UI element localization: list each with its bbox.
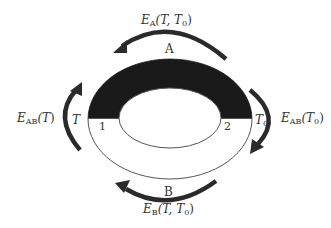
emf-label-left: EAB(T) (16, 111, 55, 126)
thermocouple-diagram: EA(T, T0) A EAB(T) T 1 2 T0 EAB(T0) B EB… (0, 0, 331, 228)
temperature-t-label: T (72, 113, 81, 127)
emf-label-top: EA(T, T0) (140, 13, 192, 28)
conductor-a-label: A (164, 42, 174, 56)
emf-label-bottom: EB(T, T0) (142, 202, 194, 217)
junction-1-label: 1 (99, 120, 106, 133)
ring-inner-hole (119, 88, 221, 148)
conductor-b-label: B (164, 185, 173, 199)
junction-2-label: 2 (224, 120, 231, 133)
emf-label-right: EAB(T0) (280, 111, 324, 126)
